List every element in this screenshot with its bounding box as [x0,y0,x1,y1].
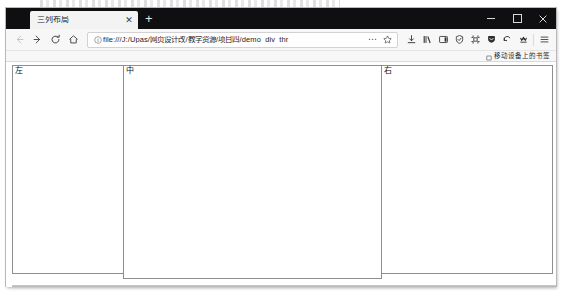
column-right-label: 右 [384,66,392,76]
navigation-toolbar: file:///J:/Upas/网页设计改/教学资源/项目四/demo_div_… [6,29,556,51]
close-icon [539,15,547,23]
shield-icon[interactable] [451,31,467,49]
title-bar: 三列布局 ✕ + [6,8,556,29]
column-right: 右 [381,65,553,274]
column-middle: 中 [123,65,382,279]
tab-title: 三列布局 [37,16,124,24]
url-text[interactable]: file:///J:/Upas/网页设计改/教学资源/项目四/demo_div_… [103,36,365,44]
sync-icon[interactable] [499,31,515,49]
reload-button[interactable] [46,31,64,49]
three-column-layout: 左 中 右 [12,65,553,274]
downloads-icon[interactable] [403,31,419,49]
toolbar-icons [403,31,552,49]
window-controls [478,8,556,29]
toolbar-separator [533,34,534,46]
address-bar[interactable]: file:///J:/Upas/网页设计改/教学资源/项目四/demo_div_… [87,32,398,48]
library-icon[interactable] [419,31,435,49]
window-bottom-edge [12,285,556,287]
close-button[interactable] [530,8,556,29]
screenshot-icon[interactable] [467,31,483,49]
tab-close-icon[interactable]: ✕ [124,16,134,25]
tab-strip: 三列布局 ✕ + [6,8,153,29]
browser-window: 三列布局 ✕ + [6,8,556,286]
minimize-button[interactable] [478,8,504,29]
pocket-icon[interactable] [483,31,499,49]
maximize-button[interactable] [504,8,530,29]
bookmarks-toolbar: 移动设备上的书签 [6,51,556,62]
bookmark-star-icon[interactable] [381,35,393,44]
back-arrow-icon [14,34,25,45]
bookmark-label: 移动设备上的书签 [494,53,550,60]
home-icon [68,34,79,45]
scanned-text-artifact [40,0,340,8]
identity-info-icon[interactable] [92,36,103,44]
column-left: 左 [12,65,124,274]
back-button[interactable] [10,31,28,49]
forward-arrow-icon [32,34,43,45]
menu-icon[interactable] [536,31,552,49]
column-middle-label: 中 [126,66,134,76]
browser-tab[interactable]: 三列布局 ✕ [30,11,138,29]
column-left-label: 左 [15,66,23,76]
page-viewport: 左 中 右 [6,62,556,287]
new-tab-button[interactable]: + [145,12,153,25]
page-actions-button[interactable]: ⋯ [365,35,381,44]
reload-icon [50,34,61,45]
forward-button[interactable] [28,31,46,49]
account-icon[interactable] [515,31,531,49]
home-button[interactable] [64,31,82,49]
sidebar-icon[interactable] [435,31,451,49]
